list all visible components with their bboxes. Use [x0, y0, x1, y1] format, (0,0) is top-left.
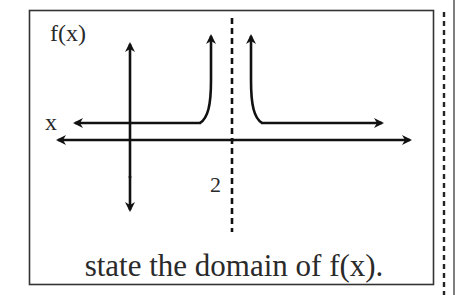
right-branch-curve — [251, 36, 262, 123]
asymptote-value-label: 2 — [210, 172, 221, 198]
question-caption: state the domain of f(x). — [34, 248, 434, 284]
y-axis-label: f(x) — [50, 20, 86, 47]
left-branch-curve — [200, 36, 211, 123]
x-axis-label: x — [45, 109, 57, 136]
